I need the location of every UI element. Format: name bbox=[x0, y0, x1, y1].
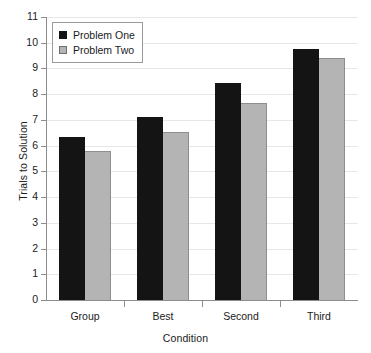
legend-item: Problem One bbox=[59, 27, 135, 42]
bar bbox=[241, 103, 267, 300]
y-axis-line bbox=[46, 17, 47, 301]
y-tick-label: 3 bbox=[16, 217, 38, 228]
legend-swatch-icon bbox=[59, 46, 67, 54]
y-tick-mark bbox=[41, 43, 46, 44]
y-tick-mark bbox=[41, 197, 46, 198]
bar bbox=[293, 49, 319, 300]
y-tick-mark bbox=[41, 146, 46, 147]
y-tick-label: 1 bbox=[16, 268, 38, 279]
x-tick-label: Second bbox=[196, 310, 286, 322]
y-tick-mark bbox=[41, 249, 46, 250]
bar bbox=[215, 83, 241, 300]
y-tick-mark bbox=[41, 120, 46, 121]
y-axis-label: Trials to Solution bbox=[17, 91, 29, 231]
legend-label: Problem One bbox=[73, 29, 135, 41]
y-tick-label: 2 bbox=[16, 243, 38, 254]
x-tick-label: Best bbox=[118, 310, 208, 322]
legend: Problem One Problem Two bbox=[52, 22, 143, 63]
y-tick-mark bbox=[41, 274, 46, 275]
x-tick-mark bbox=[124, 301, 125, 307]
y-tick-mark bbox=[41, 171, 46, 172]
legend-item: Problem Two bbox=[59, 42, 135, 57]
bar bbox=[319, 58, 345, 300]
x-tick-mark bbox=[202, 301, 203, 307]
y-tick-label: 9 bbox=[16, 62, 38, 73]
y-tick-label: 0 bbox=[16, 294, 38, 305]
y-tick-label: 7 bbox=[16, 114, 38, 125]
bar bbox=[59, 137, 85, 300]
y-tick-label: 4 bbox=[16, 191, 38, 202]
bar bbox=[163, 132, 189, 301]
y-tick-label: 5 bbox=[16, 165, 38, 176]
y-tick-mark bbox=[41, 68, 46, 69]
bar bbox=[137, 117, 163, 300]
y-tick-mark bbox=[41, 17, 46, 18]
y-tick-label: 8 bbox=[16, 88, 38, 99]
y-tick-mark bbox=[41, 300, 46, 301]
x-tick-mark bbox=[280, 301, 281, 307]
x-tick-label: Group bbox=[40, 310, 130, 322]
legend-swatch-icon bbox=[59, 31, 67, 39]
y-tick-mark bbox=[41, 94, 46, 95]
y-tick-label: 11 bbox=[16, 11, 38, 22]
x-tick-label: Third bbox=[274, 310, 364, 322]
bar-chart: Trials to Solution Condition 01234567891… bbox=[0, 0, 371, 353]
y-tick-mark bbox=[41, 223, 46, 224]
gridline bbox=[47, 17, 358, 18]
y-tick-label: 6 bbox=[16, 140, 38, 151]
legend-label: Problem Two bbox=[73, 44, 134, 56]
y-tick-label: 10 bbox=[16, 37, 38, 48]
x-axis-label: Condition bbox=[0, 332, 371, 344]
bar bbox=[85, 151, 111, 300]
